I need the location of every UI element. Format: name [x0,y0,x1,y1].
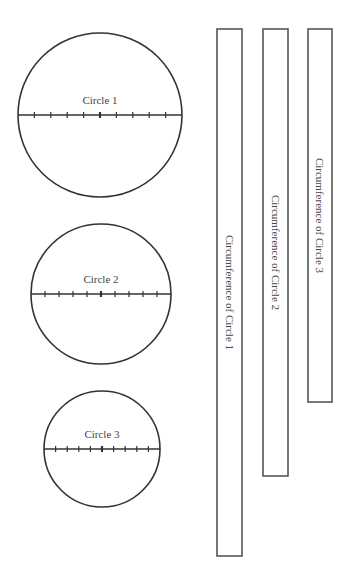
strip-label: Circumference of Circle 2 [270,195,282,310]
circle-label: Circle 3 [84,428,120,440]
circle-label: Circle 2 [83,273,118,285]
circumference-diagram: Circle 1Circle 2Circle 3 Circumference o… [0,0,355,575]
circles-group: Circle 1Circle 2Circle 3 [18,33,182,507]
strip-label: Circumference of Circle 3 [314,158,326,274]
circumference-strip-1: Circumference of Circle 1 [217,29,242,556]
circle-3: Circle 3 [44,391,160,507]
circle-1: Circle 1 [18,33,182,197]
strip-label: Circumference of Circle 1 [224,235,236,350]
circle-2: Circle 2 [31,224,171,364]
strips-group: Circumference of Circle 1Circumference o… [217,29,332,556]
circumference-strip-2: Circumference of Circle 2 [263,29,288,476]
circle-label: Circle 1 [82,94,117,106]
circumference-strip-3: Circumference of Circle 3 [308,29,332,402]
